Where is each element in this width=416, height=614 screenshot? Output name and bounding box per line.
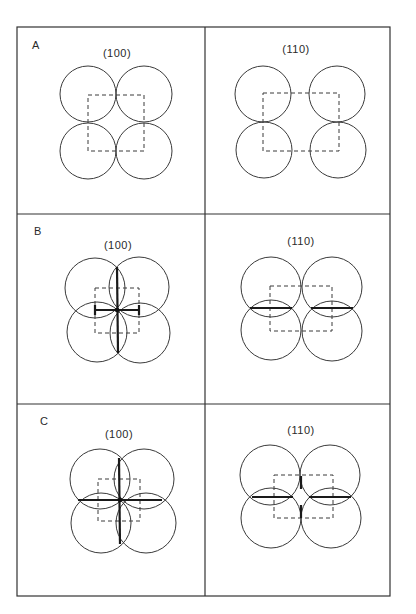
panel-c-100: (100) [70,428,176,553]
unit-cell-dashed-square [88,95,144,151]
panel-c-110: (110) [240,424,361,548]
center-point [115,308,119,312]
panel-a-110: (110) [235,43,366,178]
panel-letter-a: A [32,39,40,51]
atom-circle [116,66,172,122]
atom-circle [309,66,365,122]
crystal-plane-figure: A (100) (110) B (100) (110) C (100) (110… [0,0,416,614]
outer-frame [17,27,390,596]
panel-row-c: C (100) (110) [40,415,361,553]
panel-letter-b: B [34,225,41,237]
plane-label-b-100: (100) [104,239,132,251]
plane-label-c-110: (110) [287,424,314,436]
plane-label-c-100: (100) [105,428,133,440]
center-point [118,498,122,502]
atom-circle [310,122,366,178]
plane-label-a-100: (100) [103,47,131,59]
atom-circle [71,493,131,553]
panel-letter-c: C [40,415,48,427]
panel-b-100: (100) [65,239,170,363]
panel-row-b: B (100) (110) [34,225,362,363]
panel-a-100: (100) [60,47,172,179]
atom-circle [236,122,292,178]
plane-label-a-110: (110) [282,43,309,55]
panel-b-110: (110) [241,235,362,361]
panel-row-a: A (100) (110) [32,39,366,179]
unit-cell-dashed-square [263,93,339,151]
atom-circle [116,493,176,553]
plane-label-b-110: (110) [287,235,314,247]
